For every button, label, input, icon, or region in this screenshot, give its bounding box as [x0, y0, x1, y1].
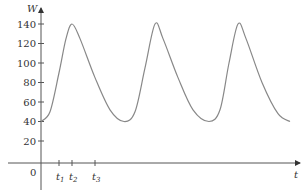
chart: W t 0 20406080100120140 t1t2t3 [0, 0, 304, 193]
y-tick-label: 140 [17, 19, 36, 30]
x-tick-label: t1 [56, 171, 65, 184]
data-line [41, 23, 290, 122]
y-tick-label: 80 [23, 77, 36, 88]
x-tick-label: t3 [92, 171, 101, 184]
y-tick-label: 40 [23, 116, 36, 127]
x-ticks: t1t2t3 [56, 160, 101, 184]
origin-label: 0 [30, 167, 36, 178]
y-tick-label: 20 [23, 136, 36, 147]
y-tick-label: 100 [17, 58, 36, 69]
line-chart: W t 0 20406080100120140 t1t2t3 [0, 0, 304, 193]
y-tick-label: 120 [17, 38, 36, 49]
y-tick-label: 60 [23, 97, 36, 108]
y-ticks: 20406080100120140 [17, 19, 44, 147]
x-tick-label: t2 [69, 171, 78, 184]
x-axis-label: t [294, 169, 299, 180]
y-axis-label: W [27, 3, 38, 14]
